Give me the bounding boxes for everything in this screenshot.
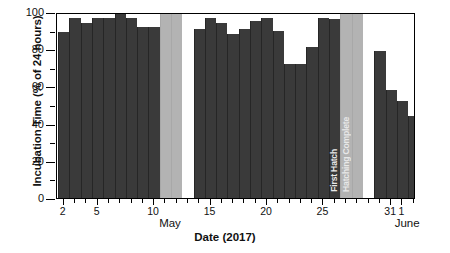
x-tick-minor [198,199,199,203]
x-tick-minor [108,199,109,203]
y-tick [46,50,55,51]
annotation-label: Hatching Complete [341,117,351,192]
x-tick-minor [74,199,75,203]
bar-missing-data [160,14,171,198]
bar [284,64,295,198]
bar-missing-data [352,14,363,198]
y-tick-minor [50,32,55,33]
y-tick [46,13,55,14]
bar [205,18,216,198]
x-tick-minor [413,199,414,203]
x-tick-minor [311,199,312,203]
x-tick-minor [176,199,177,203]
y-axis-title: Incubation Time (% of 24 hours) [31,0,43,206]
bar [58,32,69,198]
x-tick-minor [289,199,290,203]
x-tick-label: 25 [317,205,329,217]
bar [408,116,415,198]
x-tick-minor [368,199,369,203]
figure: Incubation Time (% of 24 hours) 02040608… [0,0,450,253]
x-tick-minor [164,199,165,203]
bar [318,18,329,198]
month-label: June [395,217,420,229]
x-tick-label: 31 [384,205,396,217]
x-tick-label: 5 [94,205,100,217]
y-tick-minor [50,106,55,107]
bar [239,29,250,198]
y-tick [46,125,55,126]
y-tick-label: 60 [16,81,44,92]
y-tick-label: 0 [16,193,44,204]
y-tick-label: 80 [16,44,44,55]
x-tick-minor [345,199,346,203]
x-axis-title: Date (2017) [0,231,450,243]
x-tick-label: 2 [60,205,66,217]
x-tick-minor [300,199,301,203]
bar [92,18,103,198]
bar [386,90,397,198]
x-tick-label: 20 [260,205,272,217]
bar [374,51,385,198]
y-tick [46,162,55,163]
x-tick-minor [142,199,143,203]
y-tick-minor [50,180,55,181]
bar [306,47,317,198]
x-tick-minor [277,199,278,203]
y-tick [46,87,55,88]
x-tick-minor [232,199,233,203]
bar [216,23,227,198]
y-tick-label: 40 [16,119,44,130]
x-tick-label: 10 [147,205,159,217]
x-tick-minor [221,199,222,203]
bar [137,27,148,198]
bar [250,21,261,198]
x-tick-minor [379,199,380,203]
bar [103,18,114,198]
x-tick-minor [119,199,120,203]
bar-missing-data [171,14,182,198]
bar [194,29,205,198]
y-tick-label: 20 [16,156,44,167]
bar [295,64,306,198]
bar [261,18,272,198]
month-label: May [159,217,181,229]
y-tick-minor [50,143,55,144]
x-tick-label: 15 [204,205,216,217]
plot-area: First HatchHatching Complete [56,13,415,199]
x-tick-minor [85,199,86,203]
bar [81,23,92,198]
y-tick-label: 100 [16,7,44,18]
bar [148,27,159,198]
bar [273,31,284,198]
bar [126,18,137,198]
x-tick-minor [131,199,132,203]
bar [115,13,126,198]
x-tick-minor [255,199,256,203]
bar [227,34,238,198]
bar [69,18,80,198]
y-tick-minor [50,69,55,70]
annotation-label: First Hatch [329,149,339,192]
x-tick-minor [356,199,357,203]
x-tick-minor [334,199,335,203]
x-tick-label: 1 [399,205,405,217]
x-tick-minor [243,199,244,203]
y-tick [46,199,55,200]
x-tick-minor [187,199,188,203]
bar [397,101,408,198]
